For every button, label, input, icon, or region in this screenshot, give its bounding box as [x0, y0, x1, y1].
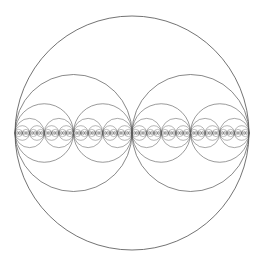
circle-fractal-diagram [0, 0, 262, 263]
